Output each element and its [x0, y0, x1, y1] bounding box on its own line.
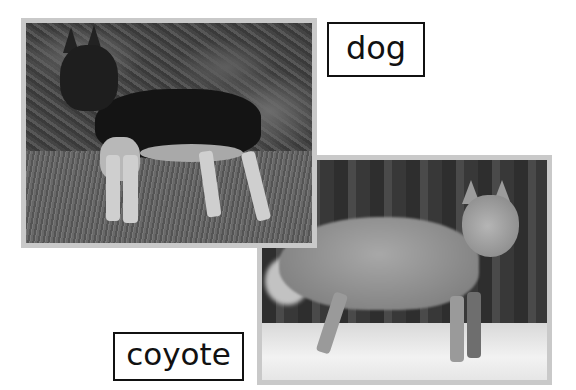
dog-photo: [21, 18, 317, 248]
snow: [262, 323, 547, 380]
dog-leg: [123, 155, 137, 223]
coyote-leg: [467, 292, 481, 358]
coyote-leg: [450, 296, 464, 362]
coyote-head: [462, 195, 519, 257]
dog-head: [60, 45, 117, 111]
grass: [26, 151, 312, 243]
coyote-label: coyote: [113, 332, 244, 381]
dog-leg: [106, 155, 120, 221]
dog-label-text: dog: [346, 32, 406, 68]
dog-label: dog: [327, 22, 425, 77]
coyote-label-text: coyote: [126, 339, 231, 374]
dog-belly: [140, 144, 243, 162]
